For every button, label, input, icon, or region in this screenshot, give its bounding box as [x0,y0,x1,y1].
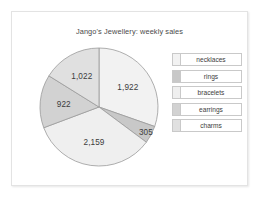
chart-legend: necklacesringsbraceletsearringscharms [172,53,242,136]
chart-panel: Jango's Jewellery: weekly sales 1,922305… [11,11,248,186]
legend-swatch-icon [173,120,181,131]
legend-swatch-icon [173,54,181,65]
legend-item-charms[interactable]: charms [172,119,242,132]
legend-item-earrings[interactable]: earrings [172,103,242,116]
legend-swatch-icon [173,71,181,82]
chart-title: Jango's Jewellery: weekly sales [12,27,247,36]
legend-item-label: earrings [181,104,241,115]
pie-label-rings: 305 [139,127,153,136]
chart-screenshot: Jango's Jewellery: weekly sales 1,922305… [0,0,259,201]
pie-chart: 1,9223052,1599221,022 [39,47,159,167]
pie-label-charms: 1,022 [71,72,92,81]
pie-label-necklaces: 1,922 [117,82,138,91]
legend-item-label: rings [181,71,241,82]
pie-label-bracelets: 2,159 [84,138,105,147]
legend-item-necklaces[interactable]: necklaces [172,53,242,66]
legend-item-label: bracelets [181,87,241,98]
legend-item-label: charms [181,120,241,131]
legend-swatch-icon [173,104,181,115]
legend-item-rings[interactable]: rings [172,70,242,83]
legend-swatch-icon [173,87,181,98]
legend-item-bracelets[interactable]: bracelets [172,86,242,99]
legend-item-label: necklaces [181,54,241,65]
pie-label-earrings: 922 [57,99,71,108]
